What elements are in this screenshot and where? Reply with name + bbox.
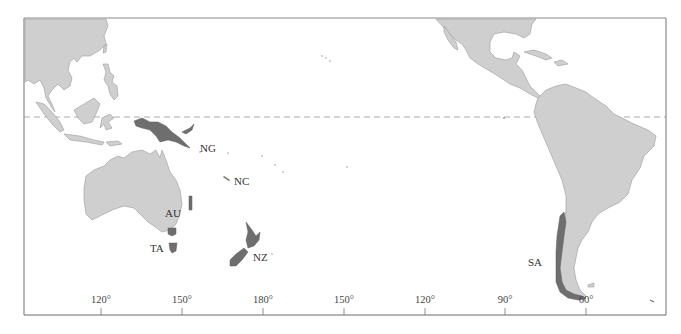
- longitude-label: 60°: [579, 295, 594, 306]
- lesser-sunda-islands: [106, 141, 122, 146]
- new-zealand-south-island: [230, 248, 248, 266]
- java-island: [64, 134, 104, 145]
- philippines-islands: [103, 64, 118, 100]
- new-britain-highlight: [182, 124, 194, 134]
- longitude-label: 90°: [498, 295, 513, 306]
- longitude-label: 150°: [334, 295, 354, 306]
- new-caledonia-island: [223, 176, 230, 181]
- region-label-australia: AU: [165, 208, 181, 219]
- longitude-ticks: [101, 308, 586, 315]
- north-central-america-landmass: [436, 19, 540, 98]
- new-guinea-highlight: [134, 118, 190, 148]
- victoria-highlight: [168, 228, 176, 236]
- southeast-asia-landmass: [25, 19, 108, 112]
- south-america-landmass: [534, 84, 656, 300]
- longitude-label: 120°: [91, 295, 111, 306]
- region-label-new-caledonia: NC: [234, 176, 249, 187]
- hispaniola-island: [554, 60, 568, 66]
- cuba-island: [524, 50, 552, 60]
- new-zealand-north-island: [246, 222, 260, 248]
- longitude-label: 150°: [172, 295, 192, 306]
- region-label-new-zealand: NZ: [253, 252, 268, 263]
- region-label-south-america: SA: [528, 257, 542, 268]
- longitude-label: 120°: [415, 295, 435, 306]
- australia-landmass: [84, 150, 182, 232]
- longitude-label: 180°: [253, 295, 273, 306]
- tasmania-highlight: [169, 243, 177, 253]
- pacific-rim-map: [0, 0, 681, 334]
- sulawesi-island: [100, 114, 114, 130]
- region-label-new-guinea: NG: [200, 143, 216, 154]
- australia-east-coast-highlight: [189, 196, 192, 210]
- borneo-island: [74, 98, 100, 124]
- falkland-islands: [588, 283, 594, 287]
- region-label-tasmania: TA: [150, 243, 164, 254]
